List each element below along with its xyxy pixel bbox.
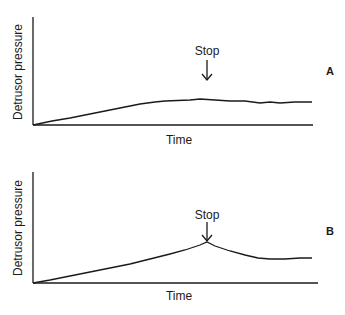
panel-a: Detrusor pressure Time Stop A	[11, 17, 334, 147]
panel-letter-a: A	[326, 65, 334, 77]
y-axis-label-b: Detrusor pressure	[11, 180, 25, 276]
stop-label-b: Stop	[195, 208, 220, 222]
pressure-curve-b	[33, 242, 312, 283]
panel-b: Detrusor pressure Time Stop B	[11, 172, 334, 303]
x-axis-label-a: Time	[166, 133, 193, 147]
stop-arrow-icon-b	[202, 222, 212, 241]
x-axis-label-b: Time	[166, 289, 193, 303]
y-axis-label-a: Detrusor pressure	[11, 24, 25, 120]
pressure-curve-a	[33, 99, 312, 125]
panel-letter-b: B	[326, 225, 334, 237]
stop-label-a: Stop	[195, 44, 220, 58]
figure: Detrusor pressure Time Stop A Detrusor p…	[0, 0, 345, 315]
stop-arrow-icon-a	[202, 60, 212, 80]
